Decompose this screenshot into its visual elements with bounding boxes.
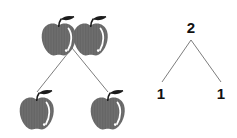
number-branch-right bbox=[191, 40, 221, 82]
apple-icon bbox=[15, 86, 59, 132]
number-left-leaf: 1 bbox=[151, 86, 171, 101]
apple-icon bbox=[86, 86, 130, 132]
number-bond-diagram: 2 1 1 bbox=[0, 0, 237, 138]
pictorial-number-bond bbox=[0, 0, 145, 138]
numeric-number-bond: 2 1 1 bbox=[145, 0, 237, 138]
apple-icon bbox=[69, 12, 113, 58]
number-branch-left bbox=[162, 40, 191, 82]
number-root: 2 bbox=[181, 20, 201, 35]
number-right-leaf: 1 bbox=[211, 86, 231, 101]
